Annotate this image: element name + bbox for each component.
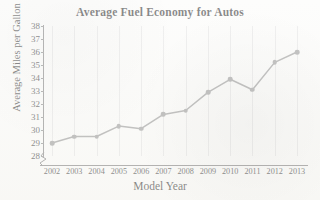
y-axis-tick-label: 31 bbox=[18, 113, 40, 122]
data-point bbox=[228, 77, 233, 82]
data-point bbox=[72, 134, 77, 139]
data-point bbox=[250, 87, 255, 92]
data-point bbox=[161, 112, 166, 117]
y-axis-tick-label: 30 bbox=[18, 126, 40, 135]
y-axis-tick-label: 33 bbox=[18, 87, 40, 96]
data-point bbox=[50, 141, 55, 146]
data-point bbox=[295, 50, 300, 55]
series-polyline bbox=[52, 52, 297, 143]
x-axis-title: Model Year bbox=[0, 180, 320, 192]
data-point bbox=[206, 90, 211, 95]
y-axis-tick-label: 37 bbox=[18, 35, 40, 44]
y-axis-tick-label: 35 bbox=[18, 61, 40, 70]
data-point bbox=[139, 126, 144, 131]
x-axis-tick-label: 2013 bbox=[282, 167, 312, 177]
data-point bbox=[272, 60, 277, 65]
plot-area bbox=[44, 26, 305, 156]
series-line-fuel-economy bbox=[44, 26, 305, 156]
y-axis-tick-label: 34 bbox=[18, 74, 40, 83]
y-axis-tick-label: 32 bbox=[18, 100, 40, 109]
y-axis-tick-label: 38 bbox=[18, 22, 40, 31]
y-axis-tick-label: 29 bbox=[18, 139, 40, 148]
chart-title: Average Fuel Economy for Autos bbox=[0, 6, 320, 18]
data-point bbox=[117, 124, 122, 129]
data-point bbox=[94, 134, 99, 139]
x-axis-line bbox=[40, 165, 308, 166]
y-axis-tick-label: 28 bbox=[18, 152, 40, 161]
data-point bbox=[183, 108, 188, 113]
y-axis-tick-label: 36 bbox=[18, 48, 40, 57]
line-chart: Average Fuel Economy for Autos Average M… bbox=[0, 0, 320, 200]
y-axis-tick-mark bbox=[41, 156, 44, 157]
